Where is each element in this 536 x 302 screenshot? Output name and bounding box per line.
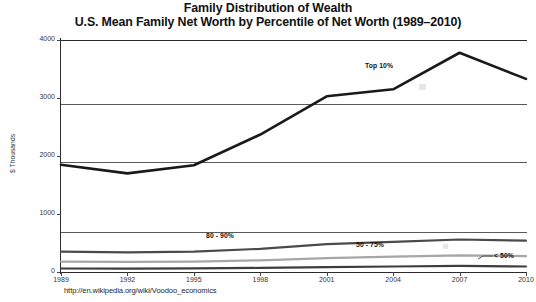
series-line: [61, 255, 526, 261]
series-line: [61, 240, 526, 253]
scan-artifact: [443, 244, 448, 249]
chart-container: Family Distribution of Wealth U.S. Mean …: [0, 0, 536, 302]
series-label-under-50: < 50%: [494, 252, 514, 259]
series-lines: [0, 0, 536, 302]
scan-artifact: [419, 84, 426, 90]
series-line: [61, 53, 526, 174]
series-line: [61, 266, 526, 269]
source-url: http://en.wikipedia.org/wiki/Voodoo_econ…: [64, 286, 217, 295]
series-label-top-10: Top 10%: [365, 62, 393, 69]
series-label-80-90: 80 - 90%: [206, 232, 234, 239]
series-label-50-75: 50 - 75%: [356, 241, 384, 248]
